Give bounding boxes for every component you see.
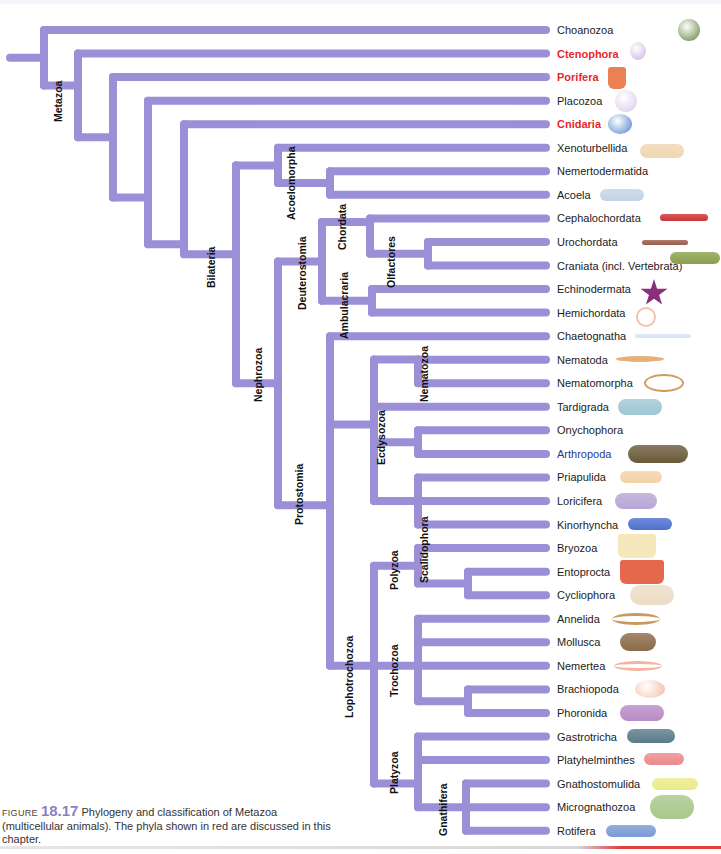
leaf-label-cnidaria: Cnidaria (557, 117, 601, 131)
gastrotrich-icon (627, 729, 675, 743)
caption-number: 18.17 (41, 802, 79, 819)
earthworm-icon (612, 613, 660, 625)
loriciferan-icon (615, 493, 657, 509)
clade-label-metazoa: Metazoa (52, 81, 64, 122)
clade-label-protostomia: Protostomia (293, 464, 305, 525)
leaf-label-mollusca: Mollusca (557, 635, 600, 649)
leaf-label-echinodermata: Echinodermata (557, 282, 631, 296)
entoproct-icon (620, 560, 664, 584)
acoel-icon (600, 189, 644, 201)
leaf-label-nemertodermatida: Nemertodermatida (557, 164, 648, 178)
leaf-label-placozoa: Placozoa (557, 94, 602, 108)
leaf-label-craniata-incl-vertebrata: Craniata (incl. Vertebrata) (557, 259, 682, 273)
choanoflagellate-icon (678, 19, 700, 41)
leaf-label-choanozoa: Choanozoa (557, 23, 613, 37)
leaf-label-entoprocta: Entoprocta (557, 565, 610, 579)
sponge-icon (608, 67, 626, 89)
caption-prefix: Figure (2, 808, 38, 818)
phoronid-icon (620, 705, 664, 721)
clade-label-chordata: Chordata (336, 204, 348, 250)
leaf-label-gastrotricha: Gastrotricha (557, 730, 617, 744)
horseshoe-crab-icon (628, 445, 688, 463)
cycliophoran-icon (630, 585, 674, 605)
leaf-label-gnathostomulida: Gnathostomulida (557, 777, 640, 791)
leaf-label-nemertea: Nemertea (557, 659, 605, 673)
snail-shell-icon (620, 633, 656, 651)
clade-label-deuterostomia: Deuterostomia (296, 236, 308, 310)
leaf-label-annelida: Annelida (557, 612, 600, 626)
leaf-label-acoela: Acoela (557, 188, 591, 202)
clade-label-scalidophora: Scalidophora (418, 516, 430, 583)
leaf-label-phoronida: Phoronida (557, 706, 607, 720)
leaf-label-hemichordata: Hemichordata (557, 306, 625, 320)
leaf-label-bryozoa: Bryozoa (557, 541, 597, 555)
clade-label-acoelomorpha: Acoelomorpha (285, 146, 297, 220)
leaf-label-rotifera: Rotifera (557, 824, 596, 838)
tardigrade-icon (618, 399, 662, 415)
xenoturbella-icon (640, 144, 684, 158)
comb-jelly-icon (630, 42, 646, 60)
clade-label-ambulacraria: Ambulacraria (338, 272, 350, 339)
leaf-label-platyhelminthes: Platyhelminthes (557, 753, 635, 767)
lancelet-icon (660, 214, 708, 221)
leaf-label-loricifera: Loricifera (557, 494, 602, 508)
roundworm-icon (616, 356, 664, 362)
clade-label-nematozoa: Nematozoa (418, 346, 430, 402)
leaf-label-micrognathozoa: Micrognathozoa (557, 800, 635, 814)
leaf-label-urochordata: Urochordata (557, 235, 618, 249)
clade-label-lophotrochozoa: Lophotrochozoa (343, 636, 355, 718)
clade-label-nephrozoa: Nephrozoa (252, 348, 264, 402)
clade-label-bilateria: Bilateria (205, 247, 217, 288)
arrow-worm-icon (635, 334, 691, 338)
leaf-label-kinorhyncha: Kinorhyncha (557, 518, 618, 532)
micrognathozoan-icon (650, 795, 694, 819)
leaf-label-porifera: Porifera (557, 70, 599, 84)
flatworm-icon (644, 753, 684, 765)
lamprey-icon (670, 252, 720, 264)
clade-label-ecdysozoa: Ecdysozoa (375, 410, 387, 465)
leaf-label-chaetognatha: Chaetognatha (557, 329, 626, 343)
leaf-label-xenoturbellida: Xenoturbellida (557, 141, 627, 155)
leaf-label-brachiopoda: Brachiopoda (557, 682, 619, 696)
gnathostomulid-icon (652, 778, 698, 790)
leaf-label-cephalochordata: Cephalochordata (557, 211, 641, 225)
clade-label-olfactores: Olfactores (385, 236, 397, 288)
clade-label-platyzoa: Platyzoa (388, 751, 400, 794)
leaf-label-tardigrada: Tardigrada (557, 400, 609, 414)
tunicate-larva-icon (642, 240, 688, 245)
acorn-worm-icon (636, 307, 656, 327)
rotifer-icon (606, 825, 656, 837)
leaf-label-onychophora: Onychophora (557, 423, 623, 437)
clade-label-polyzoa: Polyzoa (388, 550, 400, 590)
leaf-label-nematomorpha: Nematomorpha (557, 376, 633, 390)
figure-caption: Figure 18.17 Phylogeny and classificatio… (2, 804, 332, 846)
bottom-rule (0, 846, 721, 849)
priapulid-icon (620, 471, 662, 483)
clade-label-gnathifera: Gnathifera (437, 783, 449, 836)
leaf-label-cycliophora: Cycliophora (557, 588, 615, 602)
leaf-label-ctenophora: Ctenophora (557, 47, 619, 61)
kinorhynch-icon (628, 518, 672, 530)
clade-label-trochozoa: Trochozoa (388, 644, 400, 697)
leaf-label-nematoda: Nematoda (557, 353, 608, 367)
bryozoan-icon (618, 534, 656, 558)
branch-layer (10, 30, 546, 831)
ribbon-worm-icon (614, 661, 662, 671)
placozoan-icon (615, 90, 637, 112)
leaf-label-arthropoda: Arthropoda (557, 447, 611, 461)
leaf-label-priapulida: Priapulida (557, 470, 606, 484)
